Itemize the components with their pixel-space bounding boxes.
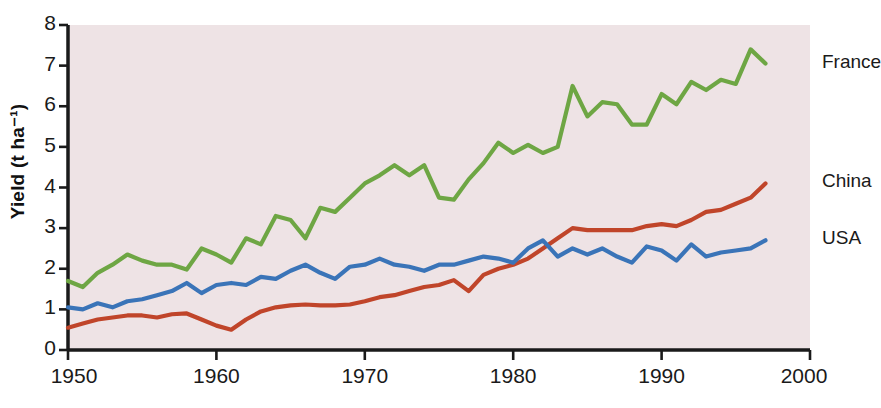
- series-label-china: China: [822, 170, 872, 192]
- y-axis-tick-label: 4: [26, 174, 56, 198]
- y-axis-tick-label: 2: [26, 255, 56, 279]
- y-axis-tick-label: 5: [26, 133, 56, 157]
- series-label-usa: USA: [822, 227, 861, 249]
- x-axis-tick-label: 1960: [171, 364, 261, 388]
- x-axis-tick-label: 1950: [29, 364, 119, 388]
- y-axis-tick-label: 7: [26, 52, 56, 76]
- x-axis-tick-label: 1980: [468, 364, 558, 388]
- x-axis-tick-label: 1970: [320, 364, 410, 388]
- x-axis-tick-label: 1990: [617, 364, 707, 388]
- plot-background: [68, 25, 810, 350]
- y-axis-tick-label: 8: [26, 11, 56, 35]
- y-axis-tick-label: 0: [26, 336, 56, 360]
- x-axis-tick-label: 2000: [759, 364, 849, 388]
- y-axis-tick-label: 6: [26, 92, 56, 116]
- y-axis-tick-label: 1: [26, 295, 56, 319]
- y-axis-tick-label: 3: [26, 214, 56, 238]
- series-label-france: France: [822, 51, 881, 73]
